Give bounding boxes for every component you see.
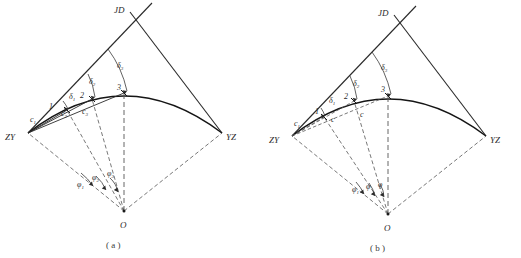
label-yz: YZ bbox=[490, 135, 501, 145]
caption-a: ( a ) bbox=[106, 240, 121, 250]
circular-curve bbox=[28, 96, 222, 133]
caption-b: ( b ) bbox=[370, 243, 385, 253]
label-delta3: δ3 bbox=[381, 63, 388, 73]
label-point-2: 2 bbox=[344, 92, 348, 101]
label-point-3: 3 bbox=[380, 85, 385, 94]
label-yz: YZ bbox=[226, 132, 237, 142]
label-point-1: 1 bbox=[49, 102, 53, 111]
chord-c2 bbox=[28, 99, 92, 133]
forward-tangent-line bbox=[130, 12, 222, 133]
radius-to-zy bbox=[292, 136, 388, 214]
diagram-panel-b: JD ZY YZ O 1 2 3 c1 c c δ1 δ2 δ3 φ1 φ φ … bbox=[261, 0, 521, 258]
chord-c3 bbox=[292, 96, 388, 136]
label-zy: ZY bbox=[5, 132, 16, 142]
forward-tangent-line bbox=[394, 15, 486, 136]
label-o: O bbox=[384, 223, 391, 233]
label-jd: JD bbox=[378, 8, 389, 18]
label-phi3: φ bbox=[378, 180, 383, 189]
center-point-dot bbox=[123, 210, 126, 213]
label-phi2: φ bbox=[366, 182, 371, 191]
back-tangent-line bbox=[28, 3, 152, 133]
phi1-arrowhead bbox=[89, 182, 93, 186]
panel-a-canvas: JD ZY YZ O 1 2 3 c1 c2 c3 δ1 δ2 δ3 φ1 φ2… bbox=[0, 0, 260, 258]
chord-c3 bbox=[28, 93, 124, 133]
label-delta2: δ2 bbox=[89, 77, 96, 87]
label-jd: JD bbox=[114, 5, 125, 15]
label-phi3: φ3 bbox=[107, 169, 114, 179]
label-chord-c2: c bbox=[331, 115, 335, 124]
radius-to-point-2 bbox=[92, 99, 124, 211]
label-point-2: 2 bbox=[80, 91, 84, 100]
label-chord-c1: c1 bbox=[30, 115, 36, 125]
center-point-dot bbox=[387, 213, 390, 216]
label-point-1: 1 bbox=[315, 107, 319, 116]
diagram-panel-a: JD ZY YZ O 1 2 3 c1 c2 c3 δ1 δ2 δ3 φ1 φ2… bbox=[0, 0, 260, 258]
label-zy: ZY bbox=[269, 135, 280, 145]
label-phi1: φ1 bbox=[352, 185, 359, 195]
label-delta1: δ1 bbox=[329, 96, 335, 106]
figure-root: JD ZY YZ O 1 2 3 c1 c2 c3 δ1 δ2 δ3 φ1 φ2… bbox=[0, 0, 521, 258]
label-chord-c1: c1 bbox=[294, 119, 300, 129]
panel-b-canvas: JD ZY YZ O 1 2 3 c1 c c δ1 δ2 δ3 φ1 φ φ … bbox=[261, 0, 521, 258]
radius-to-yz bbox=[388, 136, 486, 214]
label-phi1: φ1 bbox=[77, 180, 84, 190]
label-delta3: δ3 bbox=[117, 61, 124, 71]
label-point-3: 3 bbox=[116, 83, 121, 92]
phi3-arrowhead bbox=[114, 188, 118, 193]
back-tangent-line bbox=[292, 6, 416, 136]
label-phi2: φ2 bbox=[92, 173, 99, 183]
phi2-arrowhead bbox=[371, 192, 375, 197]
radius-to-yz bbox=[124, 133, 222, 211]
circular-curve bbox=[292, 99, 486, 136]
radius-to-point-1 bbox=[324, 117, 388, 214]
label-chord-c3: c bbox=[360, 110, 364, 119]
radius-to-point-1 bbox=[67, 110, 124, 211]
label-delta2: δ2 bbox=[353, 79, 360, 89]
label-delta1: δ1 bbox=[69, 92, 75, 102]
label-o: O bbox=[120, 220, 127, 230]
